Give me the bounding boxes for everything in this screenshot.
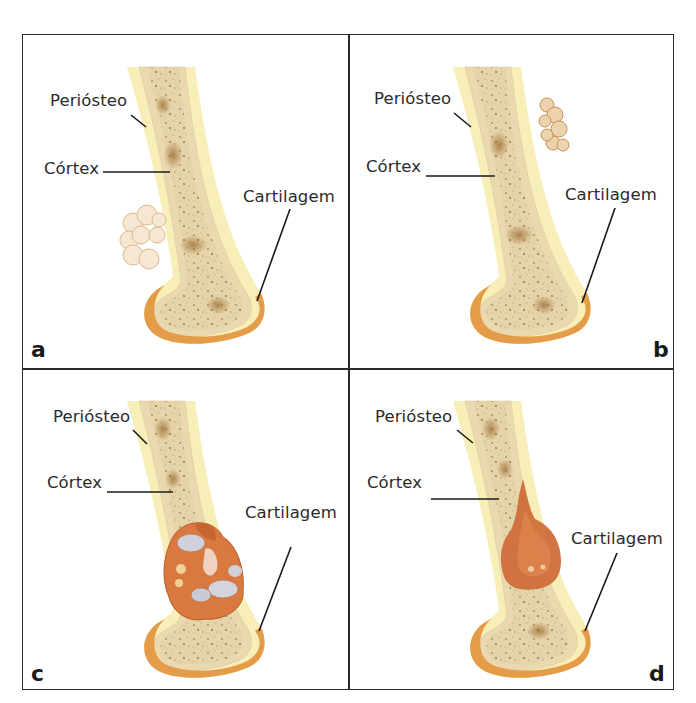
- panel-letter-b: b: [653, 337, 669, 362]
- panel-letter-c: c: [31, 661, 44, 686]
- panel-letter-d: d: [649, 661, 665, 686]
- panel-a: Periósteo Córtex Cartilagem a: [23, 35, 349, 369]
- panel-c: Periósteo Córtex Cartilagem c: [23, 369, 349, 703]
- leader-lines: [23, 369, 349, 703]
- leader-lines: [23, 35, 349, 369]
- leader-lines: [349, 35, 675, 369]
- panel-letter-a: a: [31, 337, 46, 362]
- panel-d: Periósteo Córtex Cartilagem d: [349, 369, 675, 703]
- figure-frame: Periósteo Córtex Cartilagem a: [22, 34, 674, 690]
- panel-b: Periósteo Córtex Cartilagem b: [349, 35, 675, 369]
- leader-lines: [349, 369, 675, 703]
